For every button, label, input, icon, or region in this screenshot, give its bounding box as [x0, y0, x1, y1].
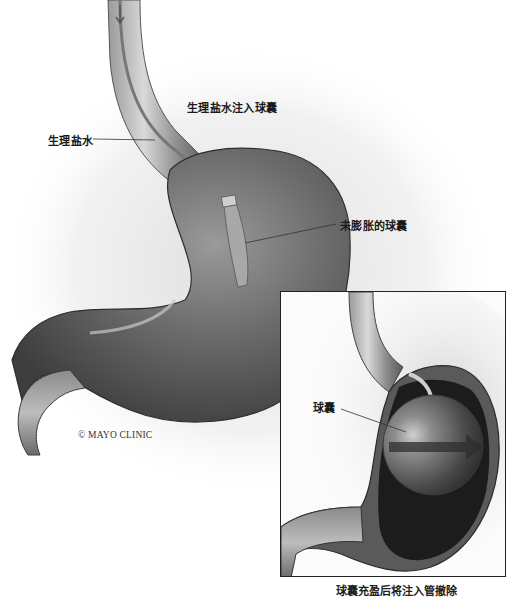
label-uninflated-balloon: 未膨胀的球囊 [340, 217, 408, 233]
inset-caption: 球囊充盈后将注入管撤除 [336, 582, 457, 598]
label-balloon: 球囊 [313, 399, 336, 415]
label-saline-into-balloon: 生理盐水注入球囊 [187, 99, 277, 115]
label-saline: 生理盐水 [48, 132, 93, 148]
inset-panel: 球囊 [280, 291, 506, 577]
inset-illustration [281, 292, 506, 577]
balloon-connector [221, 195, 237, 207]
copyright-credit: © MAYO CLINIC [78, 430, 152, 440]
